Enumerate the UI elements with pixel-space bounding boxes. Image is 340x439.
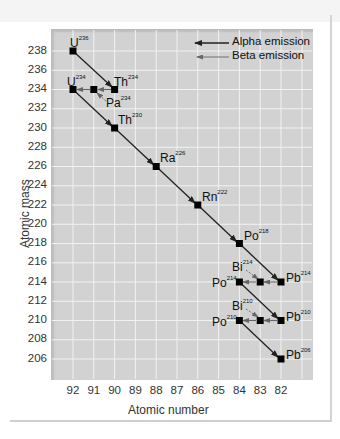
y-axis-label: Atomic mass — [18, 179, 32, 248]
x-tick: 82 — [271, 384, 291, 396]
legend-alpha-label: Alpha emission — [232, 35, 310, 47]
isotope-label-u236: U236 — [70, 36, 89, 50]
x-tick: 89 — [125, 384, 145, 396]
isotope-label-pa234: Pa234 — [106, 96, 131, 110]
isotope-label-bi210: Bi210 — [232, 299, 253, 313]
isotope-label-po214: Po214 — [212, 276, 237, 290]
isotope-label-rn222: Rn222 — [202, 190, 227, 204]
y-tick: 206 — [17, 352, 47, 364]
y-tick: 216 — [17, 255, 47, 267]
x-tick: 83 — [250, 384, 270, 396]
y-tick: 214 — [17, 275, 47, 287]
isotope-label-bi214: Bi214 — [232, 260, 253, 274]
y-tick: 234 — [17, 82, 47, 94]
y-tick: 208 — [17, 332, 47, 344]
x-tick: 92 — [63, 384, 83, 396]
isotope-label-pb206: Pb206 — [286, 348, 311, 362]
y-tick: 236 — [17, 63, 47, 75]
x-tick: 88 — [146, 384, 166, 396]
x-axis-label: Atomic number — [128, 403, 209, 417]
y-tick: 238 — [17, 44, 47, 56]
isotope-label-u234: U234 — [67, 75, 86, 89]
x-tick: 90 — [105, 384, 125, 396]
y-tick: 232 — [17, 101, 47, 113]
y-tick: 228 — [17, 140, 47, 152]
x-tick: 91 — [84, 384, 104, 396]
isotope-label-pb214: Pb214 — [286, 271, 311, 285]
y-tick: 226 — [17, 159, 47, 171]
legend-arrows — [195, 43, 229, 57]
grid-lines — [52, 30, 312, 379]
legend-beta-label: Beta emission — [232, 49, 304, 61]
isotope-label-ra226: Ra226 — [160, 151, 185, 165]
y-tick: 210 — [17, 313, 47, 325]
isotope-label-pb210: Pb210 — [286, 310, 311, 324]
chart-svg — [0, 0, 340, 439]
y-tick: 230 — [17, 121, 47, 133]
x-tick: 86 — [188, 384, 208, 396]
x-tick: 85 — [209, 384, 229, 396]
x-tick: 84 — [229, 384, 249, 396]
isotope-label-th230: Th230 — [118, 113, 142, 127]
isotope-label-po210: Po210 — [212, 315, 237, 329]
y-tick: 212 — [17, 294, 47, 306]
isotope-label-th234: Th234 — [114, 75, 138, 89]
x-tick: 87 — [167, 384, 187, 396]
isotope-label-po218: Po218 — [244, 229, 269, 243]
